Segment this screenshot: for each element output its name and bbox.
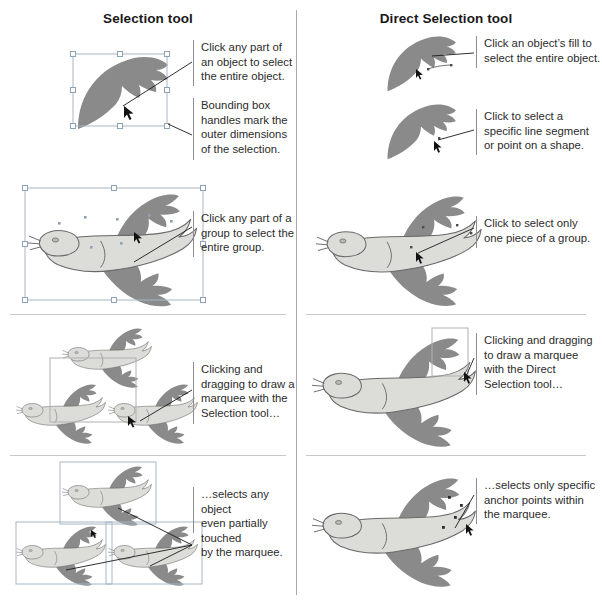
callout-click-object-fill: Click an object’s fill to select the ent… [476, 36, 602, 68]
callout-marquee-direct-selection-tool: Clicking and dragging to draw a marquee … [476, 333, 602, 395]
callout-marquee-selection-tool: Clicking and dragging to draw a marquee … [193, 362, 297, 424]
figure-bird-group-selected [20, 184, 216, 308]
callout-bounding-box-handles: Bounding box handles mark the outer dime… [193, 98, 297, 160]
cursor-arrow-icon [466, 524, 474, 536]
figure-three-birds-all-selected [16, 462, 216, 594]
direct-selection-tool-header: Direct Selection tool [296, 11, 596, 26]
cursor-arrow-icon [416, 69, 423, 80]
figure-wing-segment-clicked [386, 103, 490, 163]
callout-click-line-segment: Click to select a specific line segment … [476, 109, 600, 155]
section-divider-right-2 [306, 455, 586, 456]
figure-wing-shape-selected [68, 50, 180, 134]
cursor-arrow-icon [124, 106, 134, 120]
figure-bird-anchor-points-selected [306, 468, 492, 590]
section-divider-right-1 [306, 314, 586, 315]
section-divider-left-1 [10, 314, 286, 315]
selection-tool-header: Selection tool [0, 11, 296, 26]
callout-selects-anchor-points: …selects only specific anchor points wit… [476, 478, 598, 524]
cursor-arrow-icon [434, 141, 442, 153]
figure-wing-fill-clicked [386, 35, 490, 93]
callout-click-any-part-object: Click any part of an object to select th… [193, 40, 297, 86]
anchor-points [438, 137, 440, 139]
cursor-arrow-icon [91, 530, 97, 538]
figure-bird-tail-marquee [306, 328, 492, 446]
figure-three-birds-marquee [16, 326, 216, 448]
section-divider-left-2 [10, 455, 286, 456]
callout-click-one-piece-group: Click to select only one piece of a grou… [476, 216, 600, 248]
figure-bird-one-piece-selected [310, 186, 500, 304]
callout-selects-any-object: …selects any object even partially touch… [193, 487, 301, 533]
callout-click-any-part-group: Click any part of a group to select the … [193, 211, 299, 257]
